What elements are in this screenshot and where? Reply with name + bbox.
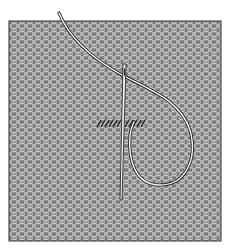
- needlework-illustration: [0, 0, 230, 248]
